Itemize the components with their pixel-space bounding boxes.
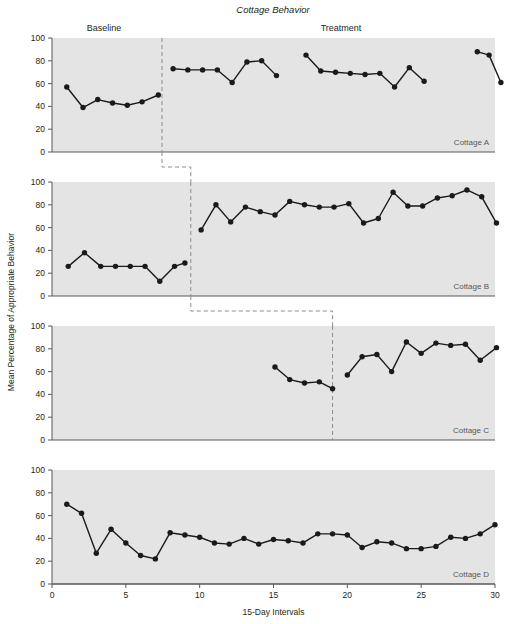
data-point-cottage-c [389, 369, 394, 374]
data-point-cottage-b [213, 202, 218, 207]
data-point-cottage-b [182, 260, 187, 265]
x-tick-label-10: 10 [195, 590, 205, 600]
data-point-cottage-b [464, 187, 469, 192]
phase-connector-2-3 [191, 296, 333, 326]
y-tick-label-4-100: 100 [31, 465, 45, 475]
data-point-cottage-d [64, 502, 69, 507]
data-point-cottage-a [125, 103, 130, 108]
data-point-cottage-c [272, 364, 277, 369]
data-point-cottage-c [287, 377, 292, 382]
x-tick-label-25: 25 [416, 590, 426, 600]
data-point-cottage-a [170, 66, 175, 71]
y-tick-label-2-60: 60 [36, 223, 46, 233]
data-point-cottage-d [94, 551, 99, 556]
data-point-cottage-c [404, 339, 409, 344]
y-tick-label-4-60: 60 [36, 511, 46, 521]
data-point-cottage-a [64, 84, 69, 89]
data-point-cottage-a [139, 99, 144, 104]
panel-background-2 [52, 182, 495, 296]
data-point-cottage-d [182, 532, 187, 537]
data-point-cottage-a [407, 65, 412, 70]
data-point-cottage-a [333, 70, 338, 75]
phase-label-treatment: Treatment [321, 23, 362, 33]
y-tick-label-1-80: 80 [36, 56, 46, 66]
data-point-cottage-b [157, 278, 162, 283]
data-point-cottage-d [227, 541, 232, 546]
panel-label-cottage-d: Cottage D [453, 570, 489, 579]
panel-background-1 [52, 38, 495, 152]
data-point-cottage-c [345, 372, 350, 377]
data-point-cottage-b [331, 204, 336, 209]
data-point-cottage-b [420, 203, 425, 208]
data-point-cottage-a [215, 67, 220, 72]
data-point-cottage-a [200, 67, 205, 72]
panel-background-3 [52, 326, 495, 440]
data-point-cottage-c [448, 343, 453, 348]
phase-label-baseline: Baseline [87, 23, 122, 33]
data-point-cottage-a [348, 71, 353, 76]
data-point-cottage-d [345, 532, 350, 537]
data-point-cottage-d [433, 544, 438, 549]
panel-label-cottage-b: Cottage B [453, 282, 489, 291]
x-tick-label-20: 20 [343, 590, 353, 600]
data-point-cottage-d [123, 540, 128, 545]
data-point-cottage-c [463, 342, 468, 347]
data-point-cottage-b [405, 203, 410, 208]
y-tick-label-2-100: 100 [31, 177, 45, 187]
data-point-cottage-b [317, 204, 322, 209]
chart-title: Cottage Behavior [236, 4, 310, 15]
figure-container: Cottage BehaviorBaselineTreatment0204060… [0, 0, 518, 624]
data-point-cottage-a [244, 59, 249, 64]
data-point-cottage-a [486, 52, 491, 57]
data-point-cottage-d [389, 540, 394, 545]
y-tick-label-3-40: 40 [36, 389, 46, 399]
data-point-cottage-b [113, 264, 118, 269]
data-point-cottage-a [421, 79, 426, 84]
data-point-cottage-a [185, 67, 190, 72]
data-point-cottage-c [317, 379, 322, 384]
y-tick-label-1-100: 100 [31, 33, 45, 43]
data-point-cottage-b [287, 199, 292, 204]
data-point-cottage-b [302, 202, 307, 207]
panel-label-cottage-c: Cottage C [453, 426, 489, 435]
data-point-cottage-a [95, 97, 100, 102]
y-tick-label-2-40: 40 [36, 245, 46, 255]
data-point-cottage-d [108, 527, 113, 532]
data-point-cottage-a [259, 58, 264, 63]
data-point-cottage-d [153, 556, 158, 561]
data-point-cottage-b [390, 190, 395, 195]
data-point-cottage-b [449, 193, 454, 198]
y-tick-label-4-80: 80 [36, 488, 46, 498]
y-tick-label-1-20: 20 [36, 124, 46, 134]
data-point-cottage-b [198, 227, 203, 232]
data-point-cottage-a [274, 73, 279, 78]
data-point-cottage-a [303, 52, 308, 57]
data-point-cottage-b [361, 220, 366, 225]
y-tick-label-1-0: 0 [40, 147, 45, 157]
data-point-cottage-a [392, 84, 397, 89]
data-point-cottage-d [212, 540, 217, 545]
y-tick-label-3-0: 0 [40, 435, 45, 445]
data-point-cottage-b [346, 201, 351, 206]
data-point-cottage-a [318, 68, 323, 73]
x-tick-label-30: 30 [490, 590, 500, 600]
y-tick-label-1-40: 40 [36, 101, 46, 111]
panel-background-4 [52, 470, 495, 584]
data-point-cottage-d [448, 535, 453, 540]
panel-label-cottage-a: Cottage A [454, 138, 490, 147]
data-point-cottage-b [82, 250, 87, 255]
data-point-cottage-b [66, 264, 71, 269]
data-point-cottage-b [494, 220, 499, 225]
x-tick-label-15: 15 [269, 590, 279, 600]
data-point-cottage-b [479, 194, 484, 199]
data-point-cottage-d [241, 536, 246, 541]
data-point-cottage-d [197, 535, 202, 540]
y-axis-label: Mean Percentage of Appropriate Behavior [6, 233, 16, 391]
y-tick-label-4-20: 20 [36, 556, 46, 566]
data-point-cottage-d [286, 538, 291, 543]
y-tick-label-2-0: 0 [40, 291, 45, 301]
data-point-cottage-d [418, 546, 423, 551]
data-point-cottage-a [377, 71, 382, 76]
data-point-cottage-b [376, 216, 381, 221]
data-point-cottage-b [98, 264, 103, 269]
